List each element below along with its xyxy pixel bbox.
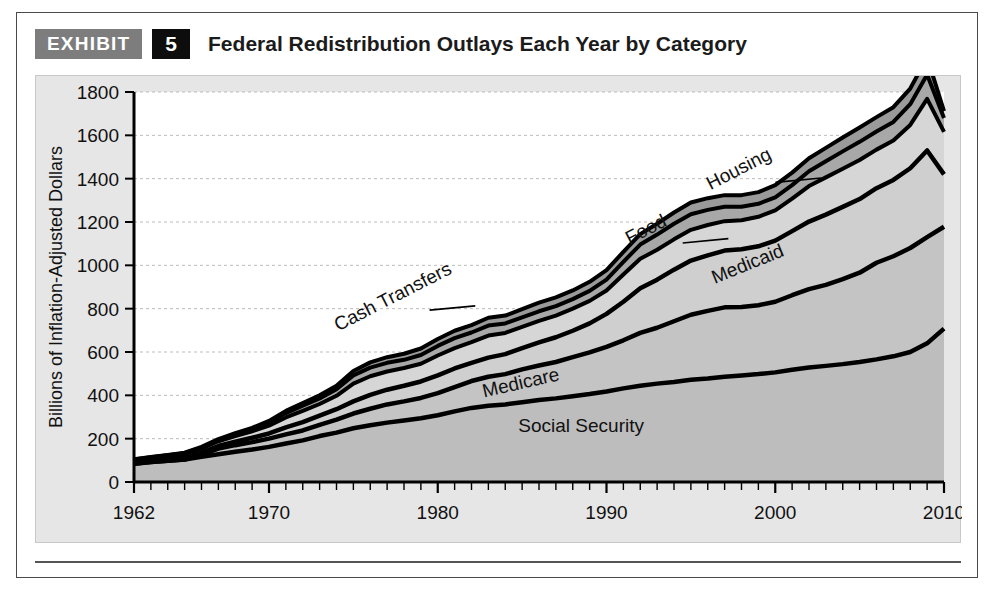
exhibit-tag: EXHIBIT [35,29,142,59]
x-tick-label: 2000 [754,502,796,523]
x-tick-label: 1980 [417,502,459,523]
x-tick-label: 2010 [923,502,962,523]
chart-panel: 0200400600800100012001400160018001962197… [35,75,961,543]
y-tick-label: 1200 [77,212,119,233]
page-title: Federal Redistribution Outlays Each Year… [208,32,747,56]
exhibit-header: EXHIBIT 5 Federal Redistribution Outlays… [35,27,747,61]
stacked-area-chart: 0200400600800100012001400160018001962197… [36,76,962,544]
y-tick-label: 1400 [77,169,119,190]
y-tick-label: 1600 [77,125,119,146]
y-tick-label: 1000 [77,255,119,276]
exhibit-frame: EXHIBIT 5 Federal Redistribution Outlays… [16,12,978,578]
y-tick-label: 800 [87,299,119,320]
y-axis-title: Billions of Inflation-Adjusted Dollars [46,146,66,428]
series-label-social-security: Social Security [518,415,644,436]
y-tick-label: 600 [87,342,119,363]
y-tick-label: 400 [87,385,119,406]
x-tick-label: 1990 [585,502,627,523]
footer-divider [35,561,961,563]
x-tick-label: 1962 [113,502,155,523]
y-tick-label: 200 [87,429,119,450]
y-tick-label: 1800 [77,82,119,103]
x-tick-label: 1970 [248,502,290,523]
exhibit-number-badge: 5 [152,29,190,59]
y-tick-label: 0 [108,472,119,493]
